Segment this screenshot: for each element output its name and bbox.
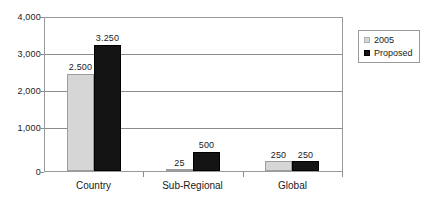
bar-country-2005[interactable] [67, 74, 94, 171]
bar-global-2005[interactable] [265, 161, 292, 171]
y-axis-tick-label: 3,000 [1, 50, 41, 59]
bar-sub-regional-2005[interactable] [166, 169, 193, 171]
x-axis-tick-mark [243, 172, 244, 177]
bar-chart: 4,000 3,000 2,000 1,000 0 2.500 3.250 25… [0, 0, 432, 204]
x-axis-tick-mark [342, 172, 343, 177]
y-axis-tick-mark [40, 172, 44, 173]
y-axis-tick-label: 2,000 [1, 87, 41, 96]
x-axis-category-label-sub-regional: Sub-Regional [143, 180, 242, 191]
bar-value-label: 3.250 [86, 34, 129, 43]
legend-swatch-icon [364, 37, 370, 43]
legend-item-proposed[interactable]: Proposed [364, 48, 413, 58]
bar-value-label: 25 [158, 159, 201, 168]
x-axis-category-label-global: Global [243, 180, 342, 191]
y-axis-tick-label: 1,000 [1, 124, 41, 133]
y-axis-tick-label: 4,000 [1, 13, 41, 22]
x-axis-category-label-country: Country [44, 180, 143, 191]
bar-group-country: 2.500 3.250 [45, 18, 144, 171]
y-axis: 4,000 3,000 2,000 1,000 0 [0, 0, 41, 204]
x-axis-tick-mark [143, 172, 144, 177]
legend-swatch-icon [364, 50, 370, 56]
plot-area: 2.500 3.250 25 500 250 250 [44, 17, 343, 172]
bar-global-proposed[interactable] [292, 161, 319, 171]
bar-group-global: 250 250 [243, 18, 342, 171]
bar-value-label: 2.500 [59, 63, 102, 72]
bar-group-sub-regional: 25 500 [144, 18, 243, 171]
bar-value-label: 500 [185, 141, 228, 150]
chart-legend: 2005 Proposed [358, 30, 420, 63]
legend-label: Proposed [374, 48, 413, 58]
y-axis-tick-label: 0 [1, 168, 41, 177]
legend-label: 2005 [374, 35, 394, 45]
bar-value-label: 250 [284, 151, 327, 160]
legend-item-2005[interactable]: 2005 [364, 35, 394, 45]
